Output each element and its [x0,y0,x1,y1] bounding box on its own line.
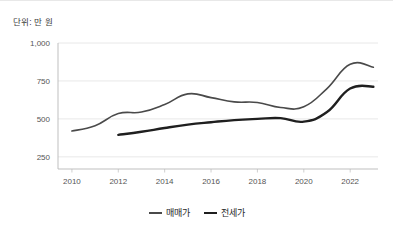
y-axis-tick-label: 500 [37,115,51,124]
y-axis-labels: 2505007501,000 [30,39,51,162]
x-axis-labels: 2010201220142016201820202022 [63,177,360,186]
x-axis-tick-label: 2010 [63,177,81,186]
y-axis-tick-label: 1,000 [30,39,51,48]
axis-lines [58,43,378,173]
x-axis-tick-label: 2018 [249,177,267,186]
legend-swatch-icon [149,212,162,214]
y-axis-tick-label: 750 [37,77,51,86]
x-axis-tick-label: 2012 [109,177,127,186]
x-axis-tick-label: 2020 [295,177,313,186]
legend-swatch-icon [204,212,217,214]
y-axis-tick-label: 250 [37,153,51,162]
gridlines [58,43,378,157]
x-axis-tick-label: 2014 [156,177,174,186]
data-series [72,63,373,135]
series-line-전세가 [118,86,373,135]
legend-label: 전세가 [221,206,245,219]
legend-item-전세가[interactable]: 전세가 [204,206,245,219]
line-chart-plot: 2505007501,000 2010201220142016201820202… [0,1,393,232]
chart-page: 단위: 만 원 2505007501,000 20102012201420162… [0,0,393,232]
x-axis-tick-label: 2016 [202,177,220,186]
chart-legend: 매매가전세가 [0,206,393,219]
x-axis-tick-label: 2022 [341,177,359,186]
legend-item-매매가[interactable]: 매매가 [149,206,190,219]
legend-label: 매매가 [166,206,190,219]
